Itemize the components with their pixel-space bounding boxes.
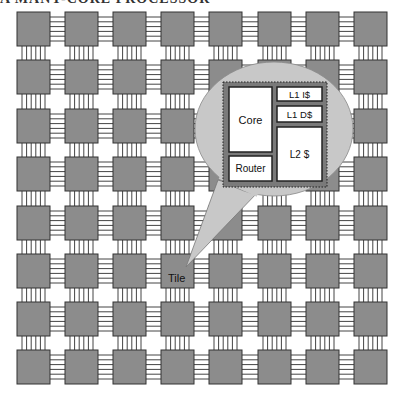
tile [258, 302, 291, 336]
tile [161, 12, 194, 46]
tile [65, 206, 98, 240]
tile [17, 12, 50, 46]
tile [113, 254, 146, 288]
tile [113, 302, 146, 336]
tile [113, 206, 146, 240]
tile [354, 302, 387, 336]
tile [113, 157, 146, 191]
tile [17, 254, 50, 288]
tile [354, 157, 387, 191]
tile [306, 350, 339, 384]
tile [209, 12, 242, 46]
tile [17, 302, 50, 336]
tile [209, 302, 242, 336]
tile [258, 206, 291, 240]
tile [161, 206, 194, 240]
tile [161, 60, 194, 94]
tile [65, 254, 98, 288]
many-core-diagram: Core Router L1 I$ L1 D$ L2 $ Tile [0, 0, 403, 410]
l1-dcache-label: L1 D$ [287, 109, 313, 120]
router-label: Router [235, 163, 266, 174]
tile [354, 350, 387, 384]
tile [258, 350, 291, 384]
tile [65, 109, 98, 143]
tile [209, 254, 242, 288]
tile [17, 350, 50, 384]
tile [354, 60, 387, 94]
tile [161, 302, 194, 336]
tile [161, 157, 194, 191]
tile [306, 12, 339, 46]
tile [17, 60, 50, 94]
tile [65, 157, 98, 191]
core-label: Core [239, 114, 263, 126]
tile [113, 350, 146, 384]
tile [306, 206, 339, 240]
l2-cache-label: L2 $ [290, 149, 310, 160]
tile [113, 60, 146, 94]
tile [209, 350, 242, 384]
tile [65, 12, 98, 46]
tile [17, 109, 50, 143]
tile [306, 254, 339, 288]
tile [306, 302, 339, 336]
tile [354, 12, 387, 46]
tile [17, 206, 50, 240]
tile-grid [17, 12, 387, 384]
tile [161, 109, 194, 143]
tile [65, 60, 98, 94]
tile [258, 12, 291, 46]
l1-icache-label: L1 I$ [289, 89, 311, 100]
tile [354, 109, 387, 143]
tile [161, 350, 194, 384]
tile [65, 302, 98, 336]
tile [113, 109, 146, 143]
tile [65, 350, 98, 384]
tile [17, 157, 50, 191]
tile-pointer-label: Tile [168, 272, 185, 284]
tile [258, 254, 291, 288]
tile [354, 254, 387, 288]
tile [354, 206, 387, 240]
tile [113, 12, 146, 46]
